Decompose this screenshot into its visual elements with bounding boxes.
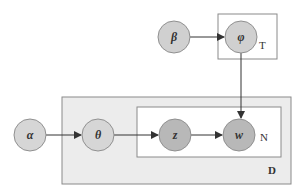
- node-z: z: [159, 119, 191, 151]
- node-theta-label: θ: [95, 128, 102, 142]
- node-phi-label: φ: [237, 30, 244, 44]
- node-phi: φ: [225, 21, 257, 53]
- plate-d-label: D: [268, 164, 276, 176]
- node-beta: β: [158, 21, 190, 53]
- node-w-label: w: [235, 128, 244, 142]
- node-z-label: z: [172, 128, 178, 142]
- plate-n-label: N: [260, 131, 268, 143]
- node-alpha-label: α: [27, 128, 34, 142]
- node-theta: θ: [82, 119, 114, 151]
- node-alpha: α: [14, 119, 46, 151]
- plate-n: N: [137, 107, 281, 157]
- node-beta-label: β: [170, 30, 178, 44]
- graphical-model-diagram: D N T α θ z w β φ: [0, 0, 307, 195]
- plate-t-label: T: [259, 39, 266, 51]
- node-w: w: [223, 119, 255, 151]
